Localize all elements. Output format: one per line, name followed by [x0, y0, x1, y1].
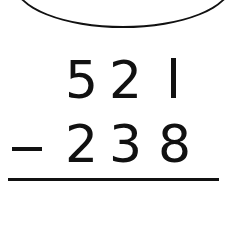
minuend-hundreds-digit: 5	[65, 56, 97, 104]
subtrahend-tens-digit: 3	[109, 120, 141, 168]
subtrahend-ones-digit: 8	[158, 120, 190, 168]
sum-line	[8, 178, 219, 181]
minuend-ones-digit	[171, 58, 176, 98]
subtrahend-row: 2 3 8	[0, 118, 237, 166]
answer-oval	[14, 0, 232, 28]
subtrahend-hundreds-digit: 2	[65, 120, 97, 168]
minuend-row: 5 2	[0, 54, 237, 102]
minuend-tens-digit: 2	[109, 56, 141, 104]
